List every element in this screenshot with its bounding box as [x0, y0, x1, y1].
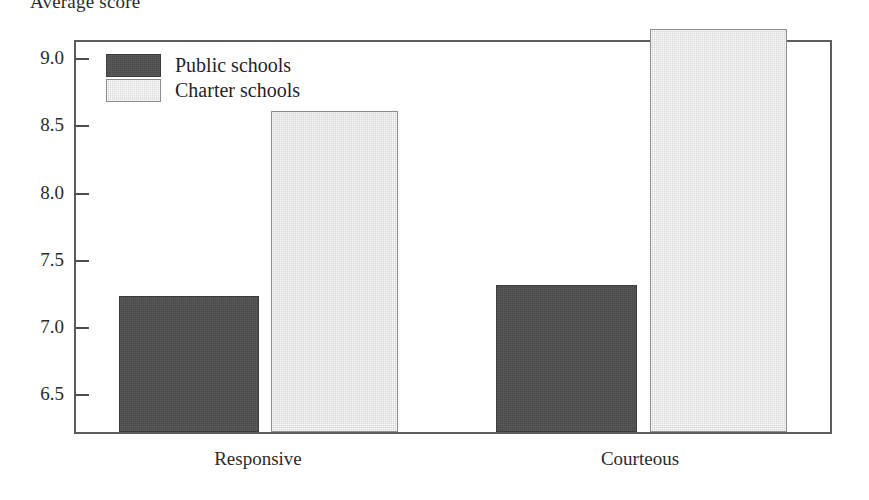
chart-legend: Public schools Charter schools — [106, 53, 300, 103]
y-tick-label-6.5: 6.5 — [4, 383, 64, 405]
x-axis-label-responsive: Responsive — [214, 448, 302, 470]
legend-swatch-public-icon — [106, 54, 161, 77]
plot-frame: 9.08.58.07.57.06.5 Public schools Charte… — [74, 40, 832, 434]
y-tick-7.0 — [75, 327, 89, 329]
legend-label-public: Public schools — [175, 54, 291, 77]
x-axis-label-courteous: Courteous — [601, 448, 679, 470]
legend-swatch-charter-icon — [106, 79, 161, 102]
bar-public-courteous — [496, 285, 637, 432]
y-tick-label-8.5: 8.5 — [4, 114, 64, 136]
legend-item-public: Public schools — [106, 53, 300, 78]
legend-item-charter: Charter schools — [106, 78, 300, 103]
bar-charter-courteous — [650, 29, 787, 432]
y-tick-8.5 — [75, 125, 89, 127]
y-tick-6.5 — [75, 394, 89, 396]
y-tick-8.0 — [75, 193, 89, 195]
legend-label-charter: Charter schools — [175, 79, 300, 102]
y-tick-label-9.0: 9.0 — [4, 47, 64, 69]
bar-public-responsive — [119, 296, 259, 432]
y-tick-label-8.0: 8.0 — [4, 182, 64, 204]
y-tick-7.5 — [75, 260, 89, 262]
y-tick-9.0 — [75, 58, 89, 60]
bar-chart: Average score 9.08.58.07.57.06.5 Public … — [0, 0, 869, 500]
y-tick-label-7.5: 7.5 — [4, 249, 64, 271]
y-axis-title: Average score — [30, 0, 140, 13]
bar-charter-responsive — [271, 111, 398, 432]
y-tick-label-7.0: 7.0 — [4, 316, 64, 338]
